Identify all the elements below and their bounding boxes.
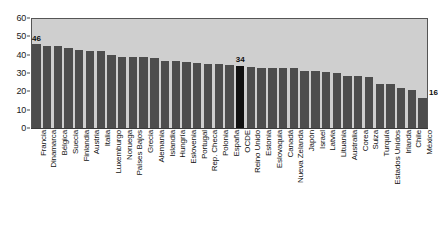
bar xyxy=(290,68,298,128)
x-axis-tick-label: Países Bajos xyxy=(136,130,144,176)
bar xyxy=(75,50,83,128)
bar-slot xyxy=(192,18,203,128)
bar-slot xyxy=(85,18,96,128)
x-axis-tick-label: Eslovenia xyxy=(190,130,198,164)
x-axis-tick-label: México xyxy=(426,130,434,155)
bar-slot xyxy=(246,18,257,128)
y-axis-tick-label: 60 xyxy=(16,13,26,23)
bar xyxy=(139,57,147,128)
bar-slot: 34 xyxy=(235,18,246,128)
x-axis-tick-label: Estonia xyxy=(265,130,273,156)
bar-slot xyxy=(374,18,385,128)
x-axis-tick-label: Grecia xyxy=(147,130,155,153)
bar-slot xyxy=(321,18,332,128)
bar xyxy=(32,44,40,128)
bar-slot xyxy=(342,18,353,128)
bar xyxy=(343,76,351,128)
y-axis-tick-mark xyxy=(27,109,30,110)
bar xyxy=(225,65,233,128)
bar xyxy=(150,58,158,128)
x-axis-tick-label: Hungría xyxy=(179,130,187,158)
x-axis-labels: FranciaDinamarcaBélgicaSueciaFinlandiaAu… xyxy=(31,130,428,226)
x-axis-tick-label: Bélgica xyxy=(61,130,69,156)
bar xyxy=(182,62,190,128)
bar-value-label: 16 xyxy=(429,89,438,97)
bar-slot xyxy=(95,18,106,128)
bar xyxy=(376,84,384,128)
bar-slot xyxy=(128,18,139,128)
bar xyxy=(418,98,426,128)
bar xyxy=(257,68,265,129)
bar xyxy=(236,66,244,128)
bar-slot: 46 xyxy=(31,18,42,128)
bar-slot xyxy=(256,18,267,128)
bar-slot xyxy=(106,18,117,128)
x-axis-tick-label: Rep. Checa xyxy=(211,130,219,171)
x-axis-tick-label: Eslovaquia xyxy=(276,130,284,168)
x-axis-tick-label: Dinamarca xyxy=(50,130,58,168)
x-axis-tick-label: Japón xyxy=(308,130,316,151)
x-axis-tick-label: España xyxy=(233,130,241,157)
x-axis-tick-label: Corea xyxy=(362,130,370,151)
bar-slot xyxy=(42,18,53,128)
bar xyxy=(118,57,126,128)
y-axis-tick-mark xyxy=(27,36,30,37)
bar xyxy=(365,77,373,128)
bar xyxy=(86,51,94,128)
bar xyxy=(54,46,62,128)
x-axis-tick-label: Lituania xyxy=(340,130,348,157)
bar-slot xyxy=(310,18,321,128)
bar xyxy=(247,67,255,128)
y-axis-tick-label: 30 xyxy=(16,68,26,78)
x-axis-tick-label: Alemania xyxy=(158,130,166,163)
x-axis-tick-label: Italia xyxy=(104,130,112,146)
bar-slot xyxy=(364,18,375,128)
bar-slot xyxy=(74,18,85,128)
x-axis-tick-label: Islandia xyxy=(169,130,177,157)
y-axis-tick-label: 50 xyxy=(16,31,26,41)
x-axis-tick-label: Reino Unido xyxy=(254,130,262,173)
bar-slot xyxy=(170,18,181,128)
bar xyxy=(97,51,105,128)
x-axis-tick-label: Australia xyxy=(351,130,359,160)
x-axis-tick-label: Luxemburgo xyxy=(115,130,123,173)
bar-slot xyxy=(331,18,342,128)
x-axis-tick-label: Canadá xyxy=(287,130,295,157)
bar xyxy=(204,64,212,128)
bar xyxy=(268,68,276,128)
x-axis-tick-label: Irlanda xyxy=(405,130,413,154)
bar-slot xyxy=(289,18,300,128)
x-axis-tick-label: Polonia xyxy=(222,130,230,156)
y-axis-tick-mark xyxy=(27,73,30,74)
bar-slot xyxy=(52,18,63,128)
bar xyxy=(300,71,308,128)
x-axis-tick-label: Noruega xyxy=(126,130,134,160)
bar-slot xyxy=(213,18,224,128)
bar-slot xyxy=(117,18,128,128)
x-axis-tick-label: Portugal xyxy=(201,130,209,159)
bar xyxy=(193,63,201,128)
bar-slot xyxy=(203,18,214,128)
y-axis-tick-mark xyxy=(27,54,30,55)
y-axis-tick-label: 0 xyxy=(21,123,26,133)
x-axis-tick-label: Latvia xyxy=(329,130,337,151)
x-axis-tick-label: Francia xyxy=(40,130,48,156)
bar-value-label: 46 xyxy=(32,35,41,43)
bar-slot xyxy=(353,18,364,128)
bar xyxy=(172,61,180,128)
x-axis-tick-label: Nueva Zelanda xyxy=(297,130,305,183)
y-axis-tick-label: 10 xyxy=(16,105,26,115)
bar xyxy=(397,88,405,128)
bar-slot xyxy=(63,18,74,128)
bar xyxy=(64,48,72,128)
bar xyxy=(215,64,223,128)
bar xyxy=(43,46,51,128)
bar xyxy=(279,68,287,128)
x-axis-tick-label: Estados Unidos xyxy=(394,130,402,185)
x-axis-tick-label: Austria xyxy=(93,130,101,154)
bar-slot xyxy=(181,18,192,128)
bar-slot xyxy=(385,18,396,128)
bar-slot xyxy=(278,18,289,128)
x-axis-tick-label: Suiza xyxy=(372,130,380,150)
